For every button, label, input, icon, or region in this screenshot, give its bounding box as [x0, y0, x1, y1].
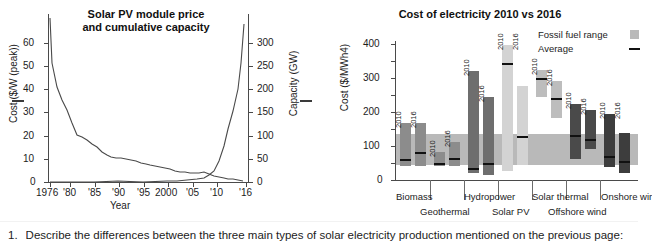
bar-year-onshore-wind-2010: 2010 [599, 102, 607, 119]
left-y-ticklabel-50: 50 [23, 61, 34, 71]
bar-avg-offshore-wind-2016 [585, 139, 596, 141]
left-x-ticklabel-1995: '95 [137, 188, 150, 198]
bar-year-solar-pv-2016: 2016 [512, 33, 520, 50]
left-y-axis-line [48, 14, 49, 182]
bar-biomass-2016 [415, 123, 426, 166]
category-label-offshore-wind: Offshore wind [548, 207, 606, 217]
cost-of-electricity-chart: Cost of electricity 2010 vs 2016 Cost ($… [320, 0, 638, 215]
left-x-ticklabel-2005: '05 [186, 188, 199, 198]
left-y-tick-50 [44, 66, 48, 67]
rc-y-tick-50 [391, 163, 395, 164]
left-y-ticklabel-60: 60 [23, 38, 34, 48]
category-label-solar-pv: Solar PV [492, 207, 530, 217]
right-y-tick-150 [249, 112, 253, 113]
bar-year-onshore-wind-2016: 2016 [614, 102, 622, 119]
bar-year-solar-thermal-2010: 2010 [531, 58, 539, 75]
left-chart-svg [48, 18, 248, 182]
bar-avg-biomass-2010 [400, 159, 411, 161]
left-y-tick-30 [44, 112, 48, 113]
bar-year-offshore-wind-2016: 2016 [580, 98, 588, 115]
left-y-tick-60 [44, 43, 48, 44]
left-y-tick-20 [44, 136, 48, 137]
rc-y-ticklabel-400: 400 [363, 39, 380, 49]
left-x-ticklabel-1985: '85 [88, 188, 101, 198]
left-y-ticklabel-30: 30 [23, 107, 34, 117]
legend-dash-average [629, 48, 640, 50]
right-y-ticklabel-0: 0 [257, 177, 263, 187]
question-number: 1. [8, 228, 18, 242]
bar-avg-onshore-wind-2016 [619, 161, 630, 163]
right-y-tick-250 [249, 66, 253, 67]
right-y-ticklabel-150: 150 [257, 107, 274, 117]
left-x-ticklabel-2000: 2000 [155, 188, 177, 198]
left-x-ticklabel-2010: '10 [210, 188, 223, 198]
solar-pv-price-capacity-chart: Solar PV module price and cumulative cap… [0, 0, 318, 215]
rc-y-tick-350 [391, 61, 395, 62]
right-y-tick-50 [249, 159, 253, 160]
left-y-ticklabel-40: 40 [23, 84, 34, 94]
right-chart-x-axis-line [395, 180, 638, 181]
rc-y-tick-150 [391, 129, 395, 130]
bar-avg-offshore-wind-2010 [570, 135, 581, 137]
bar-offshore-wind-2016 [585, 110, 596, 149]
bar-solar-pv-2016 [517, 86, 528, 165]
bar-year-biomass-2016: 2016 [410, 111, 418, 128]
worksheet-question: 1. Describe the differences between the … [8, 228, 634, 242]
right-y-tick-100 [249, 136, 253, 137]
bar-avg-hydropower-2010 [468, 168, 479, 170]
right-y-ticklabel-100: 100 [257, 131, 274, 141]
left-y-tick-40 [44, 89, 48, 90]
rc-y-tick-250 [391, 95, 395, 96]
left-x-ticklabel-1980: '80 [63, 188, 76, 198]
right-y-axis-line [248, 14, 249, 182]
legend-label-fossil-fuel-range: Fossil fuel range [538, 30, 608, 40]
rc-y-ticklabel-200: 200 [363, 107, 380, 117]
category-label-onshore-wind: Onshore wir [601, 192, 652, 202]
bar-year-hydropower-2016: 2016 [478, 85, 486, 102]
rc-y-tick-300 [391, 78, 395, 79]
left-chart-x-axis-label: Year [110, 200, 130, 211]
bar-avg-geothermal-2016 [449, 158, 460, 160]
bar-year-solar-thermal-2016: 2016 [546, 69, 554, 86]
bar-avg-solar-pv-2016 [517, 136, 528, 138]
right-y-ticklabel-300: 300 [257, 38, 274, 48]
left-x-ticklabel-1990: '90 [112, 188, 125, 198]
bar-avg-hydropower-2016 [483, 163, 494, 165]
bar-year-geothermal-2010: 2010 [429, 140, 437, 157]
bar-onshore-wind-2010 [604, 114, 615, 167]
bar-year-solar-pv-2010: 2010 [497, 33, 505, 50]
rc-y-tick-400 [391, 44, 395, 45]
bar-avg-geothermal-2010 [434, 163, 445, 165]
category-label-biomass: Biomass [396, 192, 432, 202]
right-y-tick-0 [249, 182, 253, 183]
left-chart-y-axis-label: Cost ($/W (peak)) [8, 39, 19, 129]
bar-avg-solar-thermal-2016 [551, 98, 562, 100]
right-chart-title: Cost of electricity 2010 vs 2016 [370, 8, 590, 21]
category-label-solar-thermal: Solar thermal [532, 192, 589, 202]
bar-avg-solar-pv-2010 [502, 63, 513, 65]
page-divider [0, 221, 638, 222]
bar-avg-biomass-2016 [415, 152, 426, 154]
legend-label-average: Average [538, 44, 573, 54]
bar-onshore-wind-2016 [619, 133, 630, 173]
capacity-curve [50, 24, 244, 182]
right-y-ticklabel-250: 250 [257, 61, 274, 71]
left-axis-series-dash [12, 100, 24, 102]
left-y-ticklabel-10: 10 [23, 154, 34, 164]
bar-year-biomass-2010: 2010 [395, 111, 403, 128]
cost-curve [50, 18, 243, 181]
bar-year-offshore-wind-2010: 2010 [565, 92, 573, 109]
left-x-axis-line [48, 182, 249, 183]
left-chart-secondary-y-axis-label: Capacity (GW) [288, 39, 299, 129]
legend-swatch-fossil-fuel-range [630, 30, 639, 39]
rc-y-ticklabel-300: 300 [363, 73, 380, 83]
left-y-tick-10 [44, 159, 48, 160]
left-y-ticklabel-20: 20 [23, 131, 34, 141]
category-label-hydropower: Hydropower [464, 192, 515, 202]
right-chart-y-axis-label: Cost ($/MWh4) [339, 30, 350, 126]
rc-y-ticklabel-100: 100 [363, 141, 380, 151]
question-text: Describe the differences between the thr… [26, 228, 634, 242]
bar-year-geothermal-2016: 2016 [444, 130, 452, 147]
right-y-tick-200 [249, 89, 253, 90]
